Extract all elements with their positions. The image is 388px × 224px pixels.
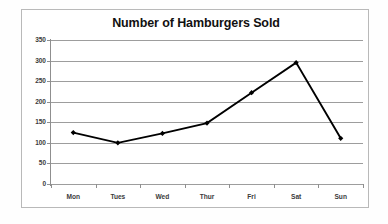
- x-axis-label-sat: Sat: [274, 193, 318, 200]
- y-axis-label-100: 100: [22, 139, 46, 146]
- x-axis-label-sun: Sun: [319, 193, 363, 200]
- y-axis-label-350: 350: [22, 36, 46, 43]
- series-polyline: [73, 63, 340, 143]
- x-axis-label-mon: Mon: [51, 193, 95, 200]
- x-tick-4: [229, 184, 230, 188]
- x-tick-5: [274, 184, 275, 188]
- x-axis-label-wed: Wed: [140, 193, 184, 200]
- y-axis-label-150: 150: [22, 118, 46, 125]
- y-tick-150: [47, 122, 51, 123]
- data-point-mon: [71, 130, 76, 135]
- y-axis-label-300: 300: [22, 57, 46, 64]
- chart-frame: Number of Hamburgers Sold 05010015020025…: [21, 9, 369, 208]
- x-tick-7: [363, 184, 364, 188]
- scanned-page-background: Number of Hamburgers Sold 05010015020025…: [0, 0, 388, 224]
- data-point-tues: [115, 140, 120, 145]
- x-axis-label-tues: Tues: [96, 193, 140, 200]
- y-tick-350: [47, 40, 51, 41]
- data-point-wed: [160, 131, 165, 136]
- y-tick-300: [47, 61, 51, 62]
- y-axis-label-0: 0: [22, 180, 46, 187]
- data-series-line: [22, 10, 370, 209]
- x-tick-0: [51, 184, 52, 188]
- y-tick-50: [47, 163, 51, 164]
- y-axis-label-50: 50: [22, 159, 46, 166]
- y-tick-100: [47, 143, 51, 144]
- x-tick-1: [96, 184, 97, 188]
- y-tick-200: [47, 102, 51, 103]
- y-tick-250: [47, 81, 51, 82]
- x-axis-label-fri: Fri: [230, 193, 274, 200]
- x-axis-label-thur: Thur: [185, 193, 229, 200]
- x-tick-2: [140, 184, 141, 188]
- y-axis-label-200: 200: [22, 98, 46, 105]
- x-tick-3: [185, 184, 186, 188]
- y-axis-label-250: 250: [22, 77, 46, 84]
- x-tick-6: [318, 184, 319, 188]
